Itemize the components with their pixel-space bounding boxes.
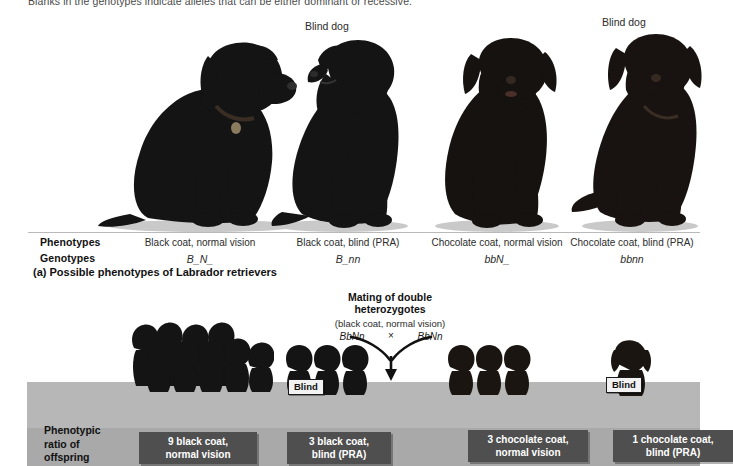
phenotype-cell-2: Black coat, blind (PRA) (297, 237, 400, 248)
phenotype-cell-4: Chocolate coat, blind (PRA) (570, 237, 693, 248)
blind-badge-1: Blind (288, 379, 324, 395)
parent-phenotype-label: (black coat, normal vision) (335, 318, 445, 329)
ratio-box-2-line-2: blind (PRA) (312, 448, 366, 461)
mating-title: Mating of double heterozygotes (348, 292, 432, 315)
blind-dog-label-2: Blind dog (602, 16, 646, 28)
ratio-box-4-line-2: blind (PRA) (646, 446, 700, 459)
blind-badge-2: Blind (606, 377, 642, 393)
genotype-cell-3: bbN_ (484, 253, 509, 265)
phenotypic-ratio-label: Phenotypic ratio of offspring (44, 424, 101, 465)
genotype-cell-2: B_nn (336, 253, 361, 265)
ratio-box-3-line-2: normal vision (495, 446, 560, 459)
mating-title-line-2: heterozygotes (354, 303, 425, 315)
adult-dog-photo-chocolate-blind (570, 32, 704, 232)
row-label-phenotypes: Phenotypes (40, 236, 101, 248)
genotype-cell-4: bbnn (620, 253, 643, 265)
adult-dog-photo-chocolate-normal (425, 36, 569, 232)
ratio-box-chocolate-normal: 3 chocolate coat, normal vision (468, 430, 588, 462)
offspring-group-chocolate-normal (444, 345, 538, 399)
ratio-label-line-2: ratio of (44, 438, 101, 452)
ratio-box-chocolate-blind: 1 chocolate coat, blind (PRA) (613, 430, 733, 462)
ratio-label-line-3: offspring (44, 451, 101, 465)
ratio-box-1-line-1: 9 black coat, (168, 435, 228, 448)
ratio-label-line-1: Phenotypic (44, 424, 101, 438)
ratio-box-black-normal: 9 black coat, normal vision (139, 432, 257, 464)
intro-text: Blanks in the genotypes indicate alleles… (28, 0, 412, 7)
genotype-cell-1: B_N_ (187, 253, 213, 265)
panel-a-divider (28, 232, 700, 233)
phenotype-cell-3: Chocolate coat, normal vision (431, 237, 562, 248)
offspring-group-black-normal (128, 318, 274, 398)
ratio-box-3-line-1: 3 chocolate coat, (487, 433, 568, 446)
ratio-box-1-line-2: normal vision (165, 448, 230, 461)
ratio-box-2-line-1: 3 black coat, (309, 435, 369, 448)
ratio-box-4-line-1: 1 chocolate coat, (632, 433, 713, 446)
caption-panel-a: (a) Possible phenotypes of Labrador retr… (33, 266, 277, 278)
ratio-box-black-blind: 3 black coat, blind (PRA) (287, 432, 391, 464)
blind-dog-label-1: Blind dog (305, 20, 349, 32)
adult-dog-photo-black-blind (268, 36, 416, 232)
phenotype-cell-1: Black coat, normal vision (145, 237, 256, 248)
mating-title-line-1: Mating of double (348, 291, 432, 303)
row-label-genotypes: Genotypes (40, 252, 95, 264)
